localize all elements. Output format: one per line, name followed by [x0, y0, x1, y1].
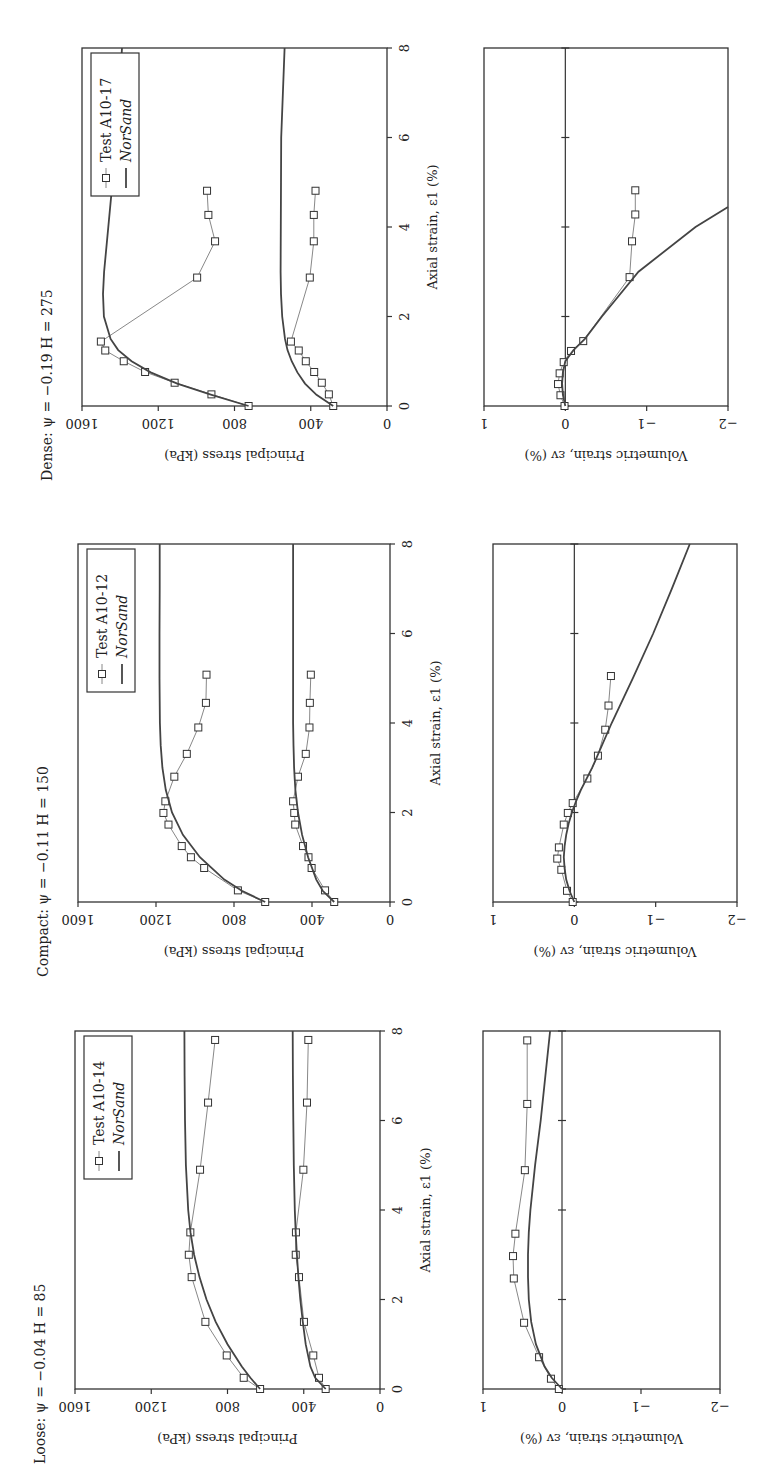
square-marker-icon	[521, 1319, 528, 1326]
model-curve	[562, 207, 728, 406]
test-curve	[101, 191, 249, 406]
x-tick-label: 2	[390, 1295, 405, 1303]
y-tick-label: 400	[300, 912, 325, 927]
square-marker-icon	[187, 854, 194, 861]
square-marker-icon	[205, 211, 212, 218]
x-tick-label: 2	[397, 312, 412, 320]
model-curve	[564, 544, 690, 902]
y-tick-label: −2	[718, 416, 737, 431]
x-tick-label: 6	[390, 1116, 405, 1124]
square-marker-icon	[295, 347, 302, 354]
plot-frame	[493, 544, 737, 902]
legend-label-test: Test A10-14	[91, 1061, 107, 1145]
square-marker-icon	[306, 724, 313, 731]
x-axis-title: Axial strain, ε1 (%)	[428, 660, 443, 786]
test-curve	[513, 1040, 559, 1389]
chart-loose-stress: 04008001200160002468Axial strain, ε1 (%)…	[32, 1027, 433, 1464]
square-marker-icon	[291, 809, 298, 816]
y-axis-title: Volumetric strain, εv (%)	[520, 1431, 684, 1446]
y-tick-label: −2	[710, 1399, 729, 1414]
square-marker-icon	[194, 274, 201, 281]
y-tick-label: 1	[489, 912, 497, 927]
square-marker-icon	[560, 821, 567, 828]
square-marker-icon	[312, 187, 319, 194]
x-tick-label: 0	[397, 402, 412, 410]
square-marker-icon	[171, 773, 178, 780]
y-tick-label: −1	[631, 1399, 650, 1414]
y-tick-label: 800	[215, 1399, 240, 1414]
model-curve	[184, 1031, 260, 1389]
square-marker-icon	[303, 1099, 310, 1106]
figure-rotated-container: 04008001200160002468Axial strain, ε1 (%)…	[0, 0, 768, 1484]
legend-label-model: NorSand	[114, 595, 130, 659]
y-tick-label: −1	[637, 416, 656, 431]
square-marker-icon	[197, 1166, 204, 1173]
square-marker-icon	[306, 699, 313, 706]
square-marker-icon	[325, 391, 332, 398]
square-marker-icon	[632, 211, 639, 218]
square-marker-icon	[223, 1352, 230, 1359]
chart-compact-stress: 04008001200160002468Axial strain, ε1 (%)…	[35, 540, 443, 977]
square-marker-icon	[305, 1036, 312, 1043]
square-marker-icon	[318, 379, 325, 386]
x-tick-label: 2	[400, 808, 415, 816]
x-tick-label: 4	[390, 1206, 405, 1214]
square-marker-icon	[306, 274, 313, 281]
legend: Test A10-12NorSand	[87, 549, 135, 692]
y-tick-label: 0	[383, 416, 391, 431]
test-curve	[163, 675, 265, 902]
model-curve	[160, 544, 266, 902]
square-marker-icon	[188, 1274, 195, 1281]
square-marker-icon	[300, 1166, 307, 1173]
square-marker-icon	[310, 1352, 317, 1359]
y-tick-label: 0	[558, 1399, 566, 1414]
square-marker-icon	[302, 750, 309, 757]
test-curve	[558, 190, 635, 406]
square-marker-icon	[183, 750, 190, 757]
y-tick-label: 800	[222, 912, 247, 927]
square-marker-icon	[292, 821, 299, 828]
square-marker-icon	[202, 1318, 209, 1325]
square-marker-icon	[160, 809, 167, 816]
square-marker-icon	[287, 338, 294, 345]
x-tick-label: 6	[400, 629, 415, 637]
y-tick-label: 1200	[135, 1399, 168, 1414]
legend-square-marker-icon	[96, 1158, 103, 1165]
x-tick-label: 6	[397, 133, 412, 141]
legend-label-test: Test A10-12	[94, 574, 110, 658]
square-marker-icon	[311, 368, 318, 375]
square-marker-icon	[510, 1275, 517, 1282]
y-tick-label: −1	[646, 912, 665, 927]
square-marker-icon	[310, 238, 317, 245]
x-tick-label: 8	[390, 1027, 405, 1035]
square-marker-icon	[203, 671, 210, 678]
legend-label-test: Test A10-17	[98, 78, 114, 162]
chart-dense-volumetric: −2−101Volumetric strain, εv (%)	[480, 48, 738, 463]
chart-dense-stress: 04008001200160002468Axial strain, ε1 (%)…	[39, 44, 440, 481]
square-marker-icon	[165, 821, 172, 828]
figure-canvas: 04008001200160002468Axial strain, ε1 (%)…	[0, 0, 768, 1484]
y-axis-title: Principal stress (kPa)	[157, 1431, 298, 1446]
legend: Test A10-14NorSand	[84, 1036, 132, 1179]
square-marker-icon	[212, 238, 219, 245]
square-marker-icon	[524, 1037, 531, 1044]
square-marker-icon	[202, 699, 209, 706]
x-axis-title: Axial strain, ε1 (%)	[418, 1147, 433, 1273]
y-tick-label: 1	[479, 1399, 487, 1414]
square-marker-icon	[555, 381, 562, 388]
x-tick-label: 4	[400, 719, 415, 727]
y-axis-title: Volumetric strain, εv (%)	[534, 944, 698, 959]
square-marker-icon	[212, 1036, 219, 1043]
y-tick-label: 0	[570, 912, 578, 927]
y-tick-label: 1600	[65, 416, 98, 431]
square-marker-icon	[240, 1374, 247, 1381]
square-marker-icon	[292, 1251, 299, 1258]
x-tick-label: 4	[397, 223, 412, 231]
x-tick-label: 8	[400, 540, 415, 548]
panel-title: Compact: ψ = −0.11 H = 150	[35, 766, 51, 977]
square-marker-icon	[555, 844, 562, 851]
legend-label-model: NorSand	[118, 99, 134, 163]
x-axis-title: Axial strain, ε1 (%)	[425, 164, 440, 290]
square-marker-icon	[632, 187, 639, 194]
y-tick-label: 0	[561, 416, 569, 431]
